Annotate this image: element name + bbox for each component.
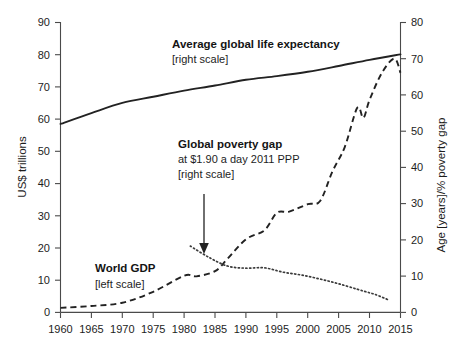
x-tick-label-2000: 2000 <box>295 323 319 335</box>
left-tick-label-60: 60 <box>38 113 50 125</box>
annotation-life-scale: [right scale] <box>172 53 228 65</box>
right-tick-label-70: 70 <box>411 53 423 65</box>
left-tick-label-80: 80 <box>38 49 50 61</box>
right-axis-title: Age [years]/% poverty gap <box>435 118 447 253</box>
right-tick-label-50: 50 <box>411 125 423 137</box>
left-tick-label-50: 50 <box>38 145 50 157</box>
annotation-poverty-subtitle: at $1.90 a day 2011 PPP <box>178 153 300 165</box>
x-tick-label-1985: 1985 <box>203 323 227 335</box>
left-tick-label-10: 10 <box>38 274 50 286</box>
right-tick-label-40: 40 <box>411 161 423 173</box>
left-tick-label-20: 20 <box>38 242 50 254</box>
left-tick-label-40: 40 <box>38 177 50 189</box>
left-tick-label-70: 70 <box>38 81 50 93</box>
right-tick-label-60: 60 <box>411 89 423 101</box>
left-tick-label-30: 30 <box>38 210 50 222</box>
left-axis-title: US$ trillions <box>16 136 28 198</box>
chart-figure: 90 80 70 60 50 40 30 20 10 0 US$ trillio… <box>0 0 457 355</box>
x-tick-label-1970: 1970 <box>110 323 134 335</box>
x-tick-label-2005: 2005 <box>326 323 350 335</box>
right-tick-label-0: 0 <box>411 306 417 318</box>
x-tick-label-1980: 1980 <box>172 323 196 335</box>
left-tick-label-90: 90 <box>38 16 50 28</box>
annotation-gdp-title: World GDP <box>95 262 156 274</box>
annotation-life-title: Average global life expectancy <box>172 38 340 50</box>
x-tick-label-1960: 1960 <box>48 323 72 335</box>
x-tick-label-1975: 1975 <box>141 323 165 335</box>
right-tick-label-10: 10 <box>411 270 423 282</box>
annotation-poverty-title: Global poverty gap <box>178 138 282 150</box>
x-tick-label-1995: 1995 <box>265 323 289 335</box>
left-tick-label-0: 0 <box>44 306 50 318</box>
x-tick-label-1965: 1965 <box>79 323 103 335</box>
annotation-poverty-scale: [right scale] <box>178 168 234 180</box>
x-tick-label-2010: 2010 <box>357 323 381 335</box>
right-tick-label-20: 20 <box>411 234 423 246</box>
x-tick-label-2015: 2015 <box>388 323 412 335</box>
chart-svg: 90 80 70 60 50 40 30 20 10 0 US$ trillio… <box>0 0 457 355</box>
x-tick-label-1990: 1990 <box>234 323 258 335</box>
right-tick-label-30: 30 <box>411 197 423 209</box>
annotation-gdp-scale: [left scale] <box>95 278 145 290</box>
right-tick-label-80: 80 <box>411 16 423 28</box>
